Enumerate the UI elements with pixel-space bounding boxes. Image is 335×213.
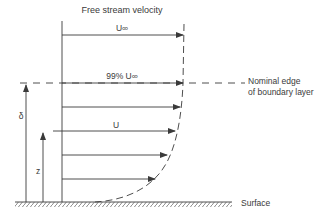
label-u-inf: U∞ [116,23,128,33]
z-label: z [36,166,40,176]
delta-label: δ [19,111,24,121]
velocity-arrows [53,35,183,179]
boundary-layer-diagram: Free stream velocity Surface U∞ 99% U∞ U… [0,0,335,213]
surface [15,202,232,207]
edge-label-line1: Nominal edge [248,76,301,86]
velocity-profile-curve [95,24,184,202]
label-99-u-inf: 99% U∞ [106,71,138,81]
diagram-title: Free stream velocity [81,5,163,15]
label-u: U [113,120,119,130]
surface-label: Surface [241,198,271,208]
edge-label-line2: of boundary layer [248,87,314,97]
